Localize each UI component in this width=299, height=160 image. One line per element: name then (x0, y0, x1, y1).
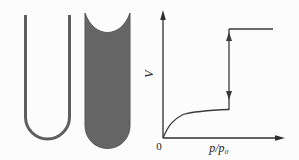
y-axis-arrow-head (160, 10, 166, 20)
empty-capillary-tube (26, 15, 70, 139)
y-axis-label: V (145, 69, 156, 78)
adsorption-isotherm-chart: V 0 p/p₀ (145, 0, 299, 160)
step-down-arrow-head (226, 91, 232, 100)
origin-label: 0 (156, 140, 162, 152)
x-axis-label: p/p₀ (208, 141, 229, 155)
filled-capillary-tube (85, 13, 130, 149)
capillary-condensation-figure: V 0 p/p₀ (0, 0, 299, 160)
adsorption-curve (163, 110, 229, 139)
capillary-tubes-illustration (0, 0, 145, 160)
step-up-arrow-head (226, 32, 232, 41)
x-axis-arrow-head (275, 135, 285, 141)
